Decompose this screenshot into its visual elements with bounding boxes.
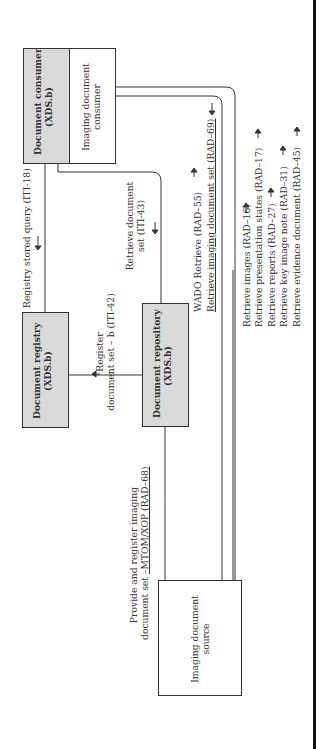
imaging-source-line1: Imaging document — [189, 591, 200, 687]
imaging-document-consumer-box: Imaging document consumer — [69, 48, 116, 164]
retrieve-key-image-note-label: Retrieve key image note (RAD–31) — [278, 166, 289, 327]
register-document-set-label: Register document set – b (ITI-42) — [94, 282, 116, 422]
document-consumer-box: Document consumer (XDS.b) — [23, 48, 70, 164]
retrieve-imaging-document-set-label: Retrieve imaging document set (RAD–69) — [205, 119, 216, 312]
provide-register-label: Provide and register imaging document se… — [128, 470, 150, 640]
provide-register-line2: document set –MTOM/XOP (RAD–68) — [139, 470, 150, 640]
imaging-source-line2: source — [200, 591, 211, 687]
provide-register-line2-plain: document set — [139, 574, 150, 640]
document-registry-subtitle: (XDS.b) — [42, 323, 53, 419]
document-consumer-label: Document consumer (XDS.b) — [32, 59, 54, 155]
retrieve-evidence-document-label: Retrieve evidence document (RAD–45) — [291, 147, 302, 327]
retrieve-presentation-states-label: Retrieve presentation states (RAD–17) — [253, 148, 264, 327]
document-registry-title: Document registry — [31, 323, 42, 419]
page-edge-rule — [313, 0, 316, 749]
provide-register-line2-underlined: –MTOM/XOP (RAD–68) — [139, 467, 150, 575]
retrieve-images-label: Retrieve images (RAD–16) — [241, 204, 252, 327]
document-repository-title: Document repository — [151, 314, 162, 418]
provide-register-line1: Provide and register imaging — [128, 470, 139, 640]
document-consumer-title: Document consumer — [32, 59, 43, 155]
register-line2: document set – b (ITI-42) — [105, 282, 116, 422]
retrieve-doc-set-line2: set (ITI-43) — [135, 176, 146, 276]
register-line1: Register — [94, 282, 105, 422]
document-repository-subtitle: (XDS.b) — [162, 314, 173, 418]
document-registry-box: Document registry (XDS.b) — [22, 312, 69, 428]
imaging-document-source-label: Imaging document source — [189, 591, 211, 687]
document-registry-label: Document registry (XDS.b) — [31, 323, 53, 419]
retrieve-document-set-label: Retrieve document set (ITI-43) — [124, 176, 146, 276]
document-repository-box: Document repository (XDS.b) — [142, 303, 189, 427]
imaging-document-consumer-label: Imaging document consumer — [80, 59, 102, 155]
document-consumer-subtitle: (XDS.b) — [43, 59, 54, 155]
registry-stored-query-label: Registry stored query (ITI-18) — [21, 168, 32, 308]
imaging-consumer-line1: Imaging document — [80, 59, 91, 155]
imaging-document-source-box: Imaging document source — [158, 580, 242, 696]
wado-retrieve-label: WADO Retrieve (RAD–55) — [192, 192, 203, 312]
retrieve-doc-set-line1: Retrieve document — [124, 176, 135, 276]
imaging-consumer-line2: consumer — [91, 59, 102, 155]
document-repository-label: Document repository (XDS.b) — [151, 314, 173, 418]
retrieve-reports-label: Retrieve reports (RAD–27) — [266, 203, 277, 327]
